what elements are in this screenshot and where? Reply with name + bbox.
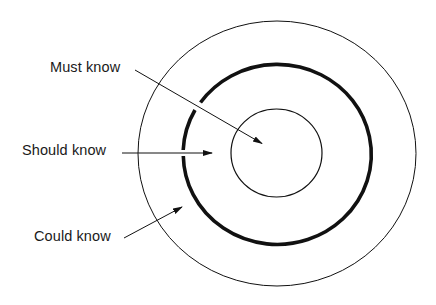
label-could-know: Could know xyxy=(34,229,111,244)
middle-thick-circle-should-know xyxy=(183,64,371,244)
label-must-know: Must know xyxy=(50,60,120,75)
could-know-arrow xyxy=(124,207,182,238)
must-know-arrow xyxy=(135,70,262,144)
inner-circle-must-know xyxy=(231,109,322,197)
label-should-know: Should know xyxy=(22,143,106,158)
